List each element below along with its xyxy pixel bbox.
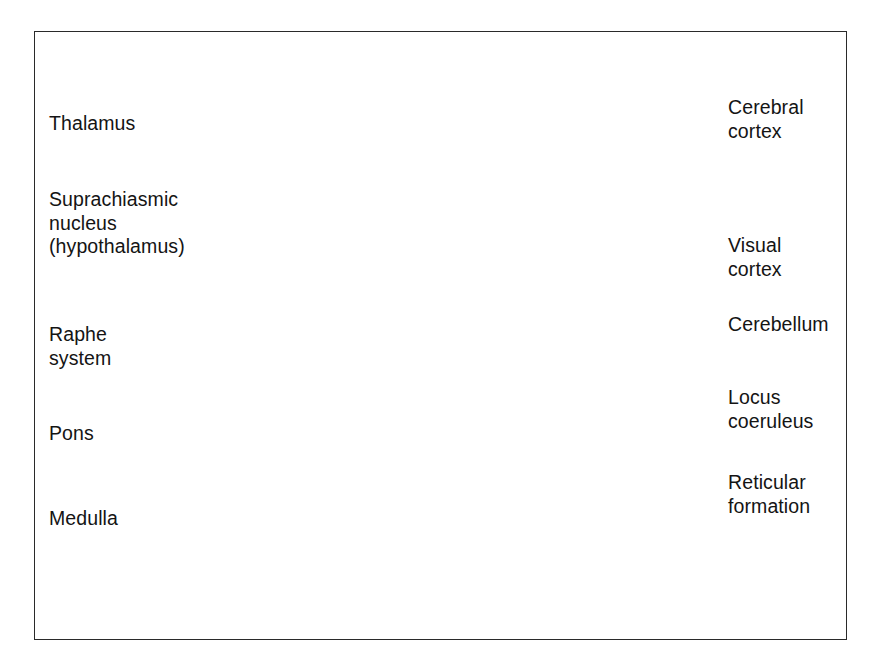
label-pons: Pons: [49, 422, 94, 446]
figure-border: [34, 31, 847, 640]
label-cerebellum: Cerebellum: [728, 313, 829, 337]
label-visual-cortex: Visual cortex: [728, 234, 782, 281]
label-medulla: Medulla: [49, 507, 118, 531]
label-reticular-formation: Reticular formation: [728, 471, 810, 518]
label-suprachiasmic-nucleus: Suprachiasmic nucleus (hypothalamus): [49, 188, 185, 259]
brain-anatomy-figure: Thalamus Suprachiasmic nucleus (hypothal…: [0, 0, 874, 668]
label-thalamus: Thalamus: [49, 112, 135, 136]
label-raphe-system: Raphe system: [49, 323, 111, 370]
label-locus-coeruleus: Locus coeruleus: [728, 386, 813, 433]
label-cerebral-cortex: Cerebral cortex: [728, 96, 804, 143]
